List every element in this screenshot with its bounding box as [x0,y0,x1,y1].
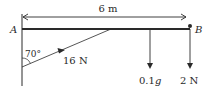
beam-diagram: 6 m A B 70° 16 N 0.1g 2 N [0,0,216,95]
point-b-dot [188,24,192,28]
point-b-label: B [194,24,202,35]
dimension-arrow [23,14,186,20]
down-arrowhead-icon [147,63,153,69]
tension-label: 16 N [63,55,88,66]
point-load-label: 2 N [180,75,199,86]
down-arrowhead-icon [187,63,193,69]
mass-load-label: 0.1g [139,75,161,86]
point-a-label: A [9,24,17,35]
dimension-label: 6 m [98,3,118,14]
angle-label: 70° [25,49,41,59]
